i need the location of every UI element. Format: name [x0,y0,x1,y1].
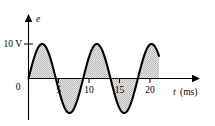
waveform-figure: e t (ms) 0 10 V 5 10 15 20 [0,0,215,126]
x-axis-arrowhead [192,75,200,82]
x-axis-unit: (ms) [180,87,197,98]
x-tick-label-15: 15 [115,85,125,95]
x-tick-label-5: 5 [56,85,61,95]
origin-label: 0 [16,82,21,92]
waveform-plot: e t (ms) 0 10 V 5 10 15 20 [0,0,215,126]
x-tick-label-20: 20 [145,85,155,95]
y-tick-label-10v: 10 V [3,39,22,49]
y-axis-label: e [36,14,40,24]
x-tick-label-10: 10 [84,85,94,95]
x-axis-label: t [173,87,176,97]
y-axis-arrowhead [25,14,32,22]
